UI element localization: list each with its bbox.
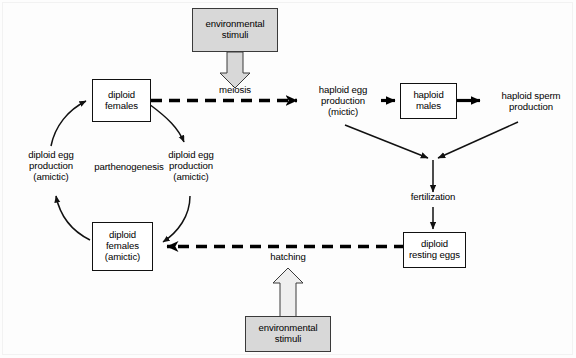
box-line: diploid xyxy=(108,90,135,101)
box-line: males xyxy=(416,101,441,112)
label-haploid-sperm-production: haploid sperm production xyxy=(488,91,574,113)
label-haploid-egg-production: haploid egg production (mictic) xyxy=(305,85,381,118)
connector-diploid-females-to-egg-right xyxy=(149,104,184,142)
label-meiosis: meiosis xyxy=(208,85,262,96)
label-hatching: hatching xyxy=(258,252,318,263)
label-diploid-egg-production-right: diploid egg production (amictic) xyxy=(148,150,234,183)
box-line: resting eggs xyxy=(409,250,460,261)
connector-egg-right-to-amictic xyxy=(163,196,190,242)
label-fertilization: fertilization xyxy=(400,192,466,203)
connector-egg-left-to-diploid-females xyxy=(51,101,86,146)
box-line: stimuli xyxy=(222,30,248,41)
box-line: (amictic) xyxy=(105,252,140,263)
connector-env-bottom-to-hatching xyxy=(273,268,303,318)
box-diploid-resting-eggs: diploid resting eggs xyxy=(403,232,466,268)
life-cycle-diagram: environmental stimuli meiosis diploid fe… xyxy=(0,0,576,358)
connector-haploid-egg-to-fertilization xyxy=(345,125,428,158)
connector-sperm-to-fertilization xyxy=(438,122,518,158)
connector-env-top-to-meiosis xyxy=(220,52,250,88)
box-line: stimuli xyxy=(275,334,301,345)
box-environmental-stimuli-bottom: environmental stimuli xyxy=(245,316,331,352)
box-haploid-males: haploid males xyxy=(400,83,457,119)
box-diploid-females-amictic: diploid females (amictic) xyxy=(92,222,153,271)
box-line: females xyxy=(105,101,138,112)
box-environmental-stimuli-top: environmental stimuli xyxy=(192,8,278,52)
label-diploid-egg-production-left: diploid egg production (amictic) xyxy=(8,150,94,183)
box-diploid-females: diploid females xyxy=(92,79,151,122)
connector-amictic-to-egg-left xyxy=(56,196,90,240)
